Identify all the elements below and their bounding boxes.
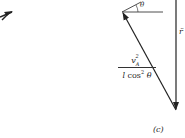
angle-label: θ bbox=[140, 2, 144, 9]
diagonal-vector-label: vA2 l cos2 θ bbox=[118, 54, 156, 80]
denominator-superscript: 2 bbox=[141, 69, 144, 75]
numerator-subscript: A bbox=[136, 61, 140, 67]
denominator-cos: cos bbox=[128, 71, 141, 80]
fraction-denominator: l cos2 θ bbox=[118, 69, 156, 80]
vertical-vector-label: r̈ bbox=[179, 28, 183, 36]
partial-arrow-left bbox=[0, 11, 13, 20]
vector-diagram bbox=[0, 0, 185, 138]
denominator-theta: θ bbox=[147, 71, 152, 80]
fraction-numerator: vA2 bbox=[118, 54, 156, 66]
denominator-l: l bbox=[122, 71, 125, 80]
fraction-bar bbox=[118, 67, 156, 68]
numerator-superscript: 2 bbox=[135, 53, 138, 59]
angle-arc bbox=[136, 5, 138, 12]
panel-label: (c) bbox=[153, 126, 164, 134]
